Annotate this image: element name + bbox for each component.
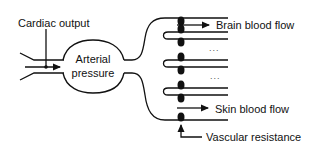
cardiac-output-label: Cardiac output <box>18 17 90 29</box>
brain-flow-label: Brain blood flow <box>216 19 294 31</box>
channel-wall-3 <box>164 88 229 95</box>
ellipsis-2: ... <box>210 71 221 81</box>
inlet-wall-bottom <box>20 73 64 80</box>
skin-flow-label: Skin blood flow <box>215 103 289 115</box>
channel-wall-2 <box>164 60 229 67</box>
circulation-diagram: Cardiac output Arterial pressure Brain b… <box>0 0 319 151</box>
ellipsis-1: ... <box>209 43 220 53</box>
arterial-label-1: Arterial <box>76 53 111 65</box>
inlet-wall-top <box>20 53 64 60</box>
channel-wall-1 <box>164 32 229 39</box>
arterial-label-2: pressure <box>72 67 115 79</box>
vascular-resistance-pointer <box>181 125 202 137</box>
vascular-resistance-label: Vascular resistance <box>206 131 301 143</box>
